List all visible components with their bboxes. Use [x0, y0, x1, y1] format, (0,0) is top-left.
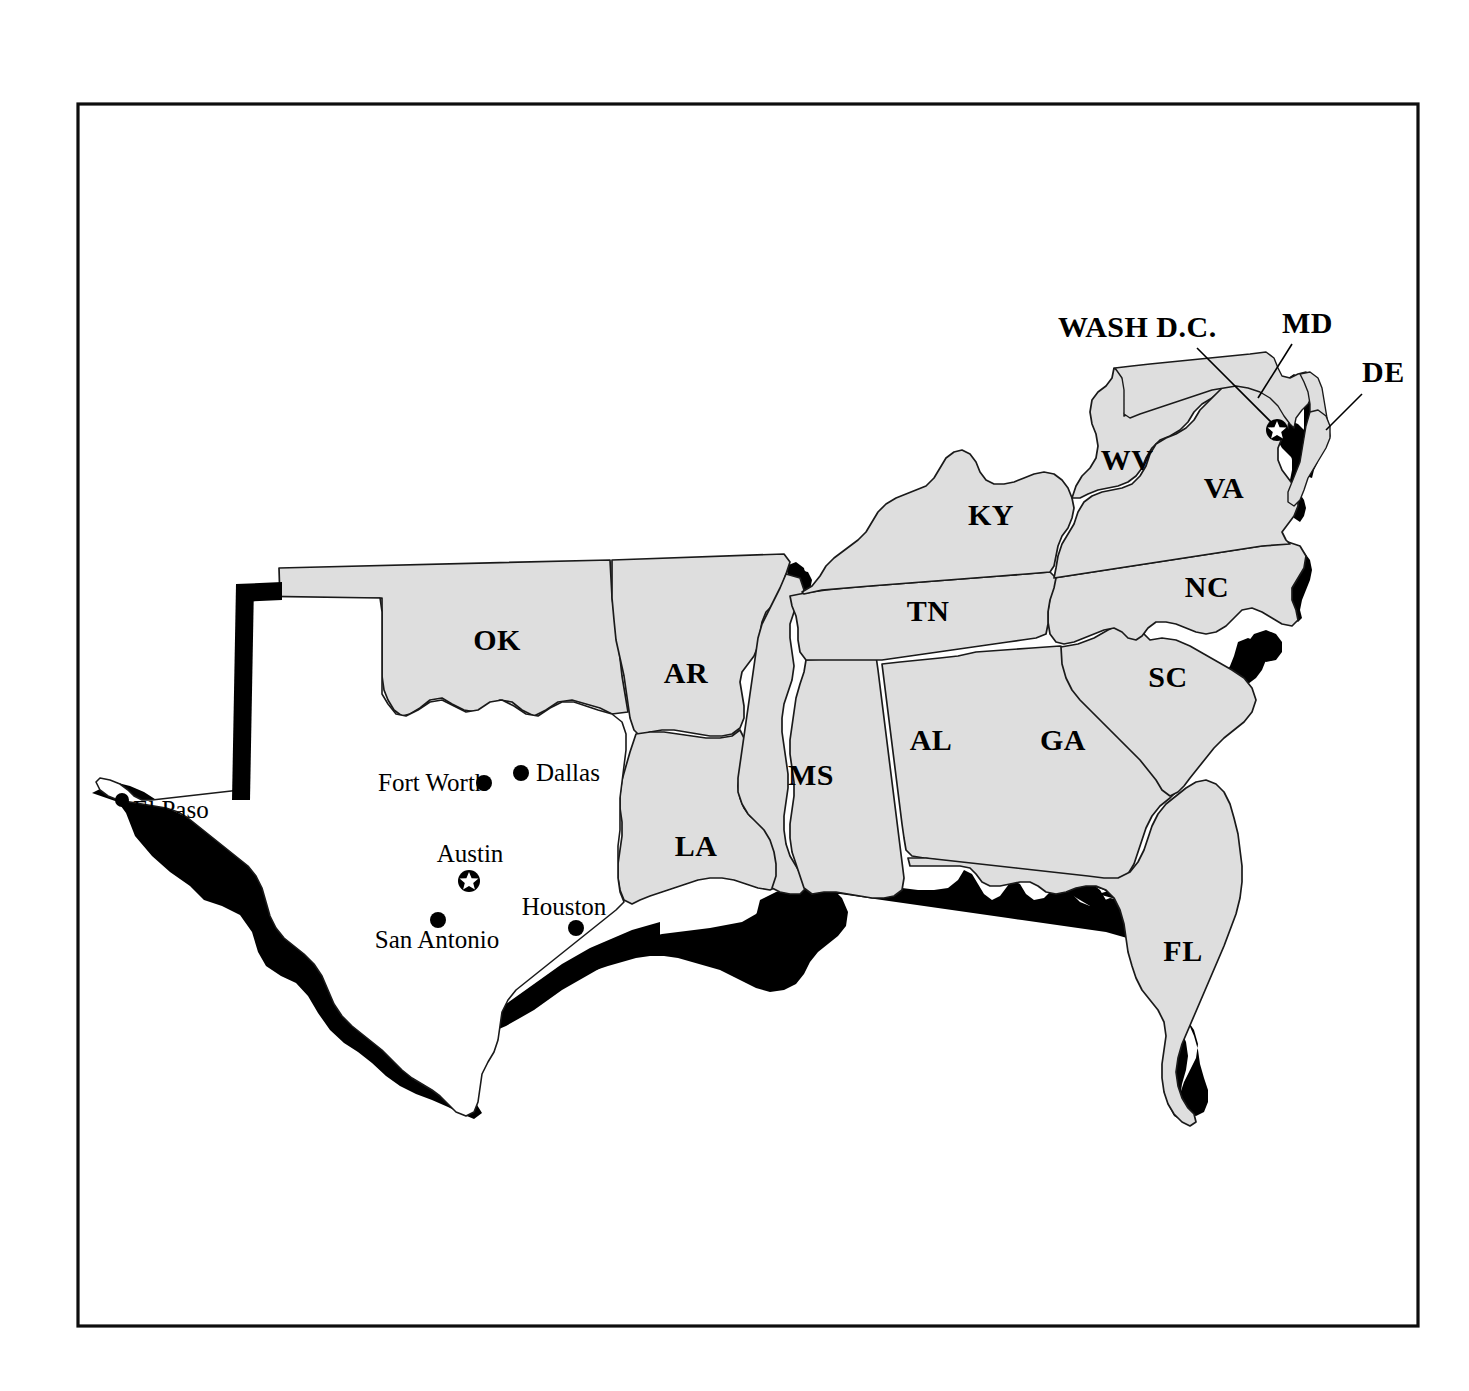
city-dot-dallas — [513, 765, 529, 781]
state-label-wv: WV — [1101, 443, 1154, 476]
state-label-ms: MS — [788, 758, 834, 791]
city-dot-fort-worth — [476, 775, 492, 791]
city-label-austin: Austin — [437, 840, 504, 867]
state-label-ok: OK — [473, 623, 521, 656]
city-label-el-paso: El Paso — [133, 796, 209, 823]
city-fort-worth[interactable]: Fort Worth — [378, 769, 492, 796]
callout-label-de: DE — [1362, 355, 1405, 388]
state-label-sc: SC — [1148, 660, 1187, 693]
state-label-ga: GA — [1040, 723, 1086, 756]
city-label-houston: Houston — [522, 893, 607, 920]
city-dot-houston — [568, 920, 584, 936]
city-label-dallas: Dallas — [536, 759, 600, 786]
callout-label-md: MD — [1282, 306, 1333, 339]
state-label-fl: FL — [1163, 934, 1202, 967]
callout-label-wash-dc: WASH D.C. — [1058, 310, 1217, 343]
state-label-ky: KY — [968, 498, 1014, 531]
state-label-al: AL — [910, 723, 953, 756]
texas-nm-border-north — [236, 582, 282, 602]
washington-dc-marker[interactable] — [1266, 419, 1288, 441]
city-dot-el-paso — [115, 793, 129, 807]
state-label-nc: NC — [1185, 570, 1229, 603]
city-label-san-antonio: San Antonio — [375, 926, 499, 953]
southeast-us-map: WASH D.C. MD DE OK AR LA MS AL GA FL SC … — [0, 0, 1469, 1391]
state-label-ar: AR — [664, 656, 708, 689]
state-label-la: LA — [675, 829, 718, 862]
state-label-tn: TN — [907, 594, 950, 627]
city-label-fort-worth: Fort Worth — [378, 769, 488, 796]
state-label-va: VA — [1204, 471, 1244, 504]
